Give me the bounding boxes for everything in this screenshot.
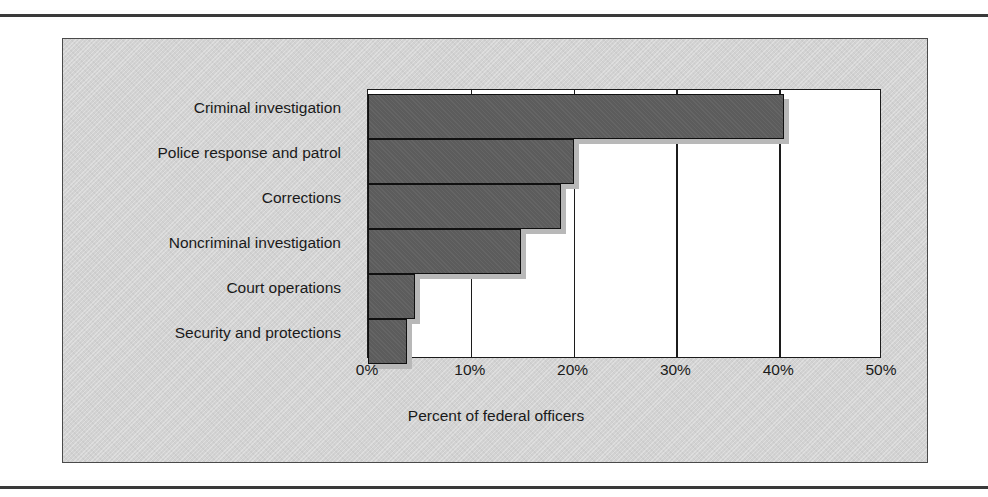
x-axis-tick-labels: 0% 10% 20% 30% 40% 50%: [367, 361, 881, 385]
bar-court-operations[interactable]: [368, 274, 415, 319]
category-label: Court operations: [73, 279, 341, 296]
category-label: Security and protections: [73, 324, 341, 341]
figure-page: Criminal investigation Police response a…: [0, 0, 988, 497]
bar-noncriminal-investigation[interactable]: [368, 229, 521, 274]
category-label: Noncriminal investigation: [73, 234, 341, 251]
category-axis-labels: Criminal investigation Police response a…: [73, 89, 341, 358]
top-horizontal-rule: [0, 14, 988, 17]
x-tick-label: 20%: [557, 361, 588, 379]
x-tick-label: 40%: [763, 361, 794, 379]
x-tick-label: 0%: [356, 361, 378, 379]
bar-criminal-investigation[interactable]: [368, 94, 784, 139]
x-tick-label: 10%: [454, 361, 485, 379]
category-label: Police response and patrol: [73, 144, 341, 161]
chart-panel: Criminal investigation Police response a…: [62, 38, 928, 463]
x-tick-label: 30%: [660, 361, 691, 379]
bar-police-response-and-patrol[interactable]: [368, 139, 574, 184]
x-axis-title: Percent of federal officers: [63, 407, 929, 425]
plot-area: [367, 89, 881, 358]
category-label: Criminal investigation: [73, 99, 341, 116]
category-label: Corrections: [73, 189, 341, 206]
bar-corrections[interactable]: [368, 184, 561, 229]
horizontal-bar-chart: Criminal investigation Police response a…: [63, 39, 929, 464]
x-tick-label: 50%: [865, 361, 896, 379]
bottom-horizontal-rule: [0, 486, 988, 489]
bar-security-and-protections[interactable]: [368, 319, 407, 364]
